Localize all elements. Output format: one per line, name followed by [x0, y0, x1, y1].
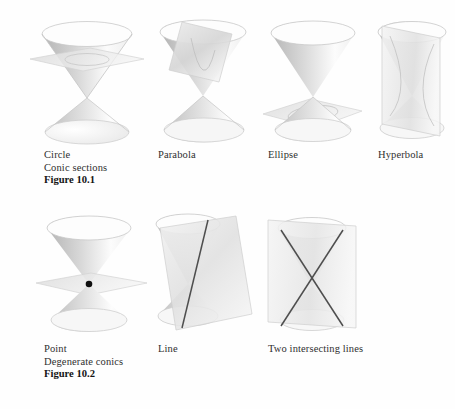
- figure-panel-two-intersecting-lines: [262, 208, 362, 338]
- figure-panel-ellipse: [258, 10, 368, 144]
- figure-panel-point: [33, 212, 151, 338]
- cutting-plane-vertical-through-vertex: [268, 220, 356, 328]
- figure-panel-line: [146, 206, 264, 338]
- caption-group-label: Conic sections: [44, 162, 107, 175]
- cutting-plane-horizontal: [30, 48, 144, 71]
- caption-figure-id-2: Figure 10.2: [44, 368, 123, 381]
- caption-parabola: Parabola: [158, 149, 196, 162]
- caption-block-figure-10-1: Circle Conic sections Figure 10.1: [44, 149, 107, 187]
- lower-nappe: [45, 98, 129, 144]
- caption-two-intersecting-lines: Two intersecting lines: [268, 343, 363, 356]
- cutting-plane-vertical: [382, 26, 440, 136]
- cutting-plane-tangent: [160, 216, 252, 330]
- caption-block-figure-10-2: Point Degenerate conics Figure 10.2: [44, 343, 123, 381]
- vertex-point-marker: [86, 281, 93, 288]
- caption-group-label-2: Degenerate conics: [44, 356, 123, 369]
- caption-hyperbola: Hyperbola: [378, 149, 423, 162]
- caption-figure-id: Figure 10.1: [44, 174, 107, 187]
- figure-panel-circle: [28, 12, 146, 144]
- caption-line: Line: [158, 343, 178, 356]
- caption-ellipse: Ellipse: [268, 149, 298, 162]
- upper-nappe: [271, 21, 355, 97]
- caption-circle: Circle: [44, 149, 107, 162]
- caption-point: Point: [44, 343, 123, 356]
- lower-nappe: [51, 284, 127, 332]
- lower-nappe: [164, 96, 244, 143]
- figure-panel-hyperbola: [368, 10, 455, 144]
- figure-panel-parabola: [148, 8, 258, 144]
- figure-page: Circle Conic sections Figure 10.1 Parabo…: [0, 0, 455, 409]
